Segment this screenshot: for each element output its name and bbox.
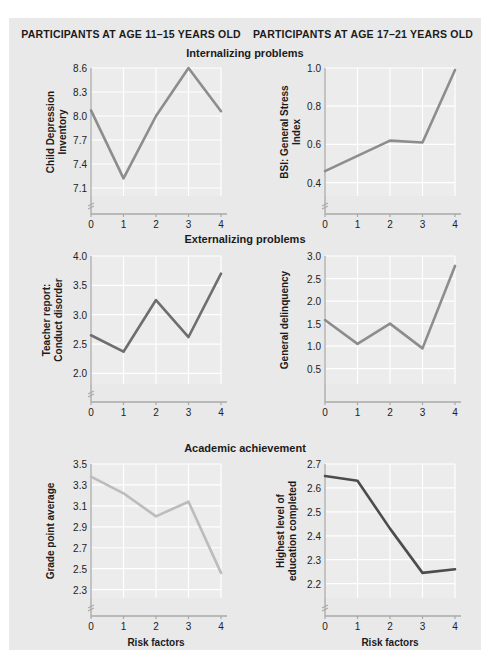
y-tick-label: 8.3 xyxy=(73,87,87,98)
y-tick-label: 3.5 xyxy=(73,459,87,470)
x-tick-label: 1 xyxy=(355,407,361,418)
x-tick-label: 1 xyxy=(355,621,361,632)
column-header-right: PARTICIPANTS AT AGE 17–21 YEARS OLD xyxy=(247,28,479,40)
x-tick-label: 0 xyxy=(88,407,94,418)
x-axis-title: Risk factors xyxy=(325,637,455,648)
chart-highest-level-of-education-completed: 2.22.32.42.52.62.701234Highest level of … xyxy=(247,458,479,658)
y-tick-label: 2.2 xyxy=(307,578,321,589)
y-tick-label: 3.0 xyxy=(307,251,321,262)
x-tick-label: 0 xyxy=(88,621,94,632)
chart-bsi-general-stress-index: 0.40.60.81.001234BSI: General Stress Ind… xyxy=(247,62,479,262)
y-tick-label: 2.9 xyxy=(73,521,87,532)
x-tick-label: 2 xyxy=(387,407,393,418)
section-title-internalizing: Internalizing problems xyxy=(9,47,481,59)
y-tick-label: 7.4 xyxy=(73,159,87,170)
y-tick-label: 3.1 xyxy=(73,500,87,511)
y-tick-label: 8.0 xyxy=(73,111,87,122)
y-tick-label: 2.7 xyxy=(73,542,87,553)
x-tick-label: 1 xyxy=(121,219,127,230)
x-tick-label: 2 xyxy=(153,621,159,632)
y-tick-label: 7.1 xyxy=(73,183,87,194)
chart-general-delinquency: 0.51.01.52.02.53.001234General delinquen… xyxy=(247,250,479,450)
x-axis-title: Risk factors xyxy=(91,637,221,648)
x-tick-label: 4 xyxy=(218,621,224,632)
x-tick-label: 0 xyxy=(322,219,328,230)
x-tick-label: 3 xyxy=(420,621,426,632)
y-tick-label: 1.0 xyxy=(307,341,321,352)
x-tick-label: 3 xyxy=(186,621,192,632)
y-tick-label: 2.3 xyxy=(73,584,87,595)
x-tick-label: 4 xyxy=(218,407,224,418)
y-tick-label: 0.5 xyxy=(307,363,321,374)
y-tick-label: 2.0 xyxy=(73,368,87,379)
y-axis-title: Grade point average xyxy=(45,469,57,593)
figure-panel: PARTICIPANTS AT AGE 11–15 YEARS OLD PART… xyxy=(9,18,481,650)
column-header-left: PARTICIPANTS AT AGE 11–15 YEARS OLD xyxy=(13,28,249,40)
x-tick-label: 4 xyxy=(452,407,458,418)
x-tick-label: 2 xyxy=(387,621,393,632)
y-tick-label: 2.3 xyxy=(307,554,321,565)
x-tick-label: 1 xyxy=(355,219,361,230)
chart-teacher-report-conduct-disorder: 2.02.53.03.54.001234Teacher report: Cond… xyxy=(13,250,245,450)
y-tick-label: 8.6 xyxy=(73,63,87,74)
x-tick-label: 3 xyxy=(186,407,192,418)
x-tick-label: 4 xyxy=(218,219,224,230)
y-axis-title: Child Depression Inventory xyxy=(45,73,57,191)
x-tick-label: 4 xyxy=(452,621,458,632)
y-tick-label: 7.7 xyxy=(73,135,87,146)
x-tick-label: 0 xyxy=(322,621,328,632)
y-tick-label: 2.7 xyxy=(307,459,321,470)
y-tick-label: 0.6 xyxy=(307,139,321,150)
chart-grade-point-average: 2.32.52.72.93.13.33.501234Grade point av… xyxy=(13,458,245,658)
y-tick-label: 2.0 xyxy=(307,296,321,307)
y-axis-title: Highest level of education completed xyxy=(275,469,299,593)
y-tick-label: 4.0 xyxy=(73,251,87,262)
x-tick-label: 3 xyxy=(420,219,426,230)
x-tick-label: 2 xyxy=(153,219,159,230)
x-tick-label: 0 xyxy=(88,219,94,230)
x-tick-label: 2 xyxy=(153,407,159,418)
y-tick-label: 3.3 xyxy=(73,479,87,490)
y-axis-title: BSI: General Stress Index xyxy=(279,73,291,191)
chart-child-depression-inventory: 7.17.47.78.08.38.601234Child Depression … xyxy=(13,62,245,262)
x-tick-label: 3 xyxy=(420,407,426,418)
y-tick-label: 3.5 xyxy=(73,280,87,291)
y-tick-label: 2.5 xyxy=(73,339,87,350)
y-tick-label: 2.4 xyxy=(307,530,321,541)
x-tick-label: 1 xyxy=(121,407,127,418)
x-tick-label: 3 xyxy=(186,219,192,230)
x-tick-label: 1 xyxy=(121,621,127,632)
y-tick-label: 1.0 xyxy=(307,63,321,74)
y-tick-label: 3.0 xyxy=(73,309,87,320)
x-tick-label: 2 xyxy=(387,219,393,230)
y-tick-label: 2.5 xyxy=(307,273,321,284)
y-tick-label: 2.5 xyxy=(73,563,87,574)
y-axis-title: Teacher report: Conduct disorder xyxy=(41,261,65,379)
x-tick-label: 4 xyxy=(452,219,458,230)
y-tick-label: 2.6 xyxy=(307,482,321,493)
y-axis-title: General delinquency xyxy=(279,261,291,379)
y-tick-label: 0.4 xyxy=(307,177,321,188)
y-tick-label: 0.8 xyxy=(307,101,321,112)
x-tick-label: 0 xyxy=(322,407,328,418)
y-tick-label: 1.5 xyxy=(307,318,321,329)
y-tick-label: 2.5 xyxy=(307,506,321,517)
